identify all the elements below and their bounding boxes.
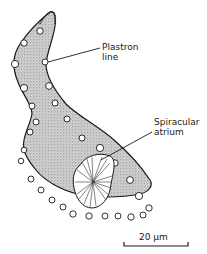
plastron-line-label-1: Plastron <box>102 42 138 52</box>
spiracular-atrium-label-2: atrium <box>154 127 200 137</box>
plastron-line-label: Plastron line <box>102 42 138 62</box>
spiracular-atrium-label-1: Spiracular <box>154 117 200 127</box>
plastron-line-leader <box>48 48 100 62</box>
plastron-line-label-2: line <box>102 52 138 62</box>
scale-bar <box>124 242 188 246</box>
spiracular-atrium-label: Spiracular atrium <box>154 117 200 137</box>
scale-bar-label: 20 µm <box>139 232 168 242</box>
